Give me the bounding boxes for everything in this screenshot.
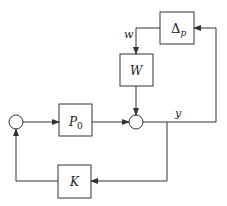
delta-label: Δp — [171, 21, 186, 38]
w-signal-label: w — [124, 28, 134, 41]
y-to-k-wire — [91, 122, 167, 181]
left-summing-junction — [9, 115, 23, 129]
w-block-label: W — [130, 64, 144, 78]
right-summing-junction — [129, 115, 143, 129]
k-to-sum-wire — [16, 129, 58, 181]
p0-label: P0 — [68, 115, 83, 131]
k-label: K — [69, 175, 80, 189]
block-diagram: Δp W P0 K w y — [0, 0, 227, 206]
y-signal-label: y — [174, 107, 182, 120]
w-signal-wire — [136, 28, 160, 54]
